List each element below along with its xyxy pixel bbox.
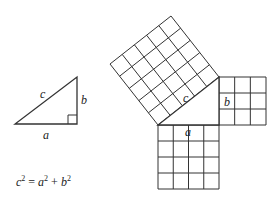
pythagoras-diagram: c b a a b c c2=a2+b2 [0, 0, 278, 200]
label-a-small: a [43, 128, 49, 142]
label-a-square: a [185, 125, 191, 139]
small-triangle [15, 77, 77, 124]
label-c-square: c [183, 91, 189, 105]
label-b-square: b [224, 95, 230, 109]
central-triangle [158, 77, 219, 125]
label-c-small: c [40, 87, 46, 101]
equation: c2=a2+b2 [16, 174, 71, 189]
label-b-small: b [81, 93, 87, 107]
